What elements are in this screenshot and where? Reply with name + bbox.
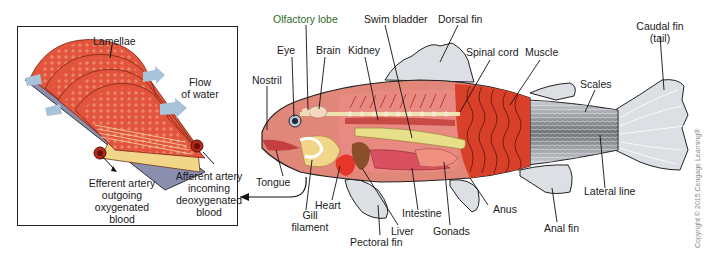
label-intestine: Intestine xyxy=(402,207,442,219)
label-pectoral-fin: Pectoral fin xyxy=(350,236,403,248)
label-afferent-artery: Afferent artery incoming deoxygenated bl… xyxy=(169,170,249,218)
label-muscle: Muscle xyxy=(525,46,558,58)
label-brain: Brain xyxy=(316,44,341,56)
label-anus: Anus xyxy=(493,203,517,215)
label-flow-of-water: Flow of water xyxy=(180,76,220,100)
label-anal-fin: Anal fin xyxy=(544,222,579,234)
gill-lamellae-drawing xyxy=(25,39,214,190)
label-lateral-line: Lateral line xyxy=(584,185,635,197)
label-spinal-cord: Spinal cord xyxy=(466,46,519,58)
label-olfactory-lobe: Olfactory lobe xyxy=(273,13,338,25)
label-caudal-fin: Caudal fin (tail) xyxy=(630,20,690,44)
label-gonads: Gonads xyxy=(433,225,470,237)
label-kidney: Kidney xyxy=(348,44,380,56)
label-efferent-artery: Efferent artery outgoing oxygenated bloo… xyxy=(82,177,162,225)
label-dorsal-fin: Dorsal fin xyxy=(438,13,482,25)
label-tongue: Tongue xyxy=(256,176,290,188)
label-gill-filament: Gill filament xyxy=(290,209,330,233)
label-eye: Eye xyxy=(277,44,295,56)
label-scales: Scales xyxy=(580,78,612,90)
label-lamellae: Lamellae xyxy=(93,35,136,47)
label-nostril: Nostril xyxy=(252,74,282,86)
copyright-notice: Copyright © 2015 Cengage Learning® xyxy=(694,129,701,248)
label-swim-bladder: Swim bladder xyxy=(364,13,428,25)
